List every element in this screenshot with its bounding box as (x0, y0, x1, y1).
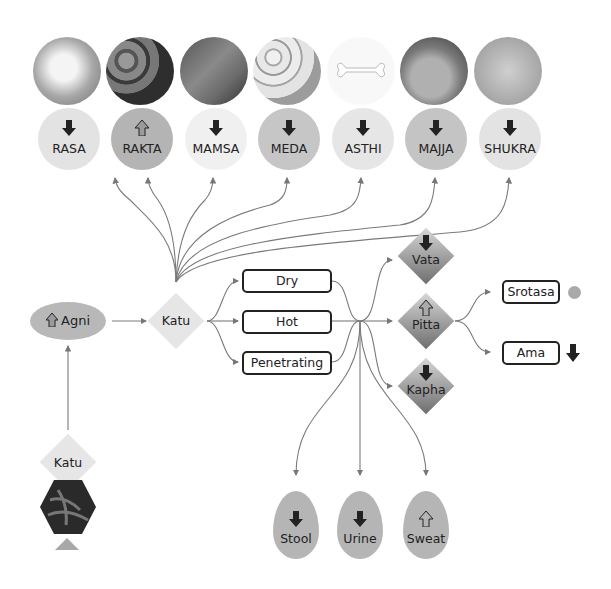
arrow-down-icon (289, 511, 303, 527)
arrow-up-icon (419, 511, 433, 527)
neutral-dot-icon (568, 286, 581, 299)
arrow-down-icon (419, 365, 433, 381)
dhatu-label: SHUKRA (479, 141, 541, 156)
mala-label: Sweat (403, 531, 449, 546)
katu-center-label: Katu (148, 313, 204, 328)
majja-photo (400, 37, 468, 105)
agni-node: Agni (30, 302, 106, 340)
dhatu-rakta: RAKTA (111, 108, 173, 170)
dosha-kapha: Kapha (398, 358, 454, 414)
arrow-down-icon (503, 120, 517, 136)
dhatu-label: RAKTA (111, 141, 173, 156)
arrow-down-icon (209, 120, 223, 136)
katu-center-node: Katu (148, 293, 204, 349)
dosha-label: Vata (398, 252, 454, 267)
dhatu-label: MEDA (258, 141, 320, 156)
mala-label: Stool (273, 531, 319, 546)
arrow-up-icon (55, 538, 79, 552)
bone-icon (327, 37, 395, 105)
dhatu-meda: MEDA (258, 108, 320, 170)
effect-srotasa: Srotasa (502, 280, 560, 304)
rasa-photo (33, 37, 101, 105)
arrow-down-icon (282, 120, 296, 136)
dhatu-mamsa: MAMSA (185, 108, 247, 170)
arrow-up-icon (46, 313, 58, 327)
meda-photo (253, 37, 321, 105)
chili-pepper-image (40, 480, 96, 534)
dhatu-label: RASA (38, 141, 100, 156)
quality-dry: Dry (242, 269, 332, 293)
dosha-vata: Vata (398, 228, 454, 284)
dhatu-shukra: SHUKRA (479, 108, 541, 170)
arrow-up-icon (135, 120, 149, 136)
dhatu-label: MAJJA (405, 141, 467, 156)
arrow-down-icon (62, 120, 76, 136)
shukra-photo (474, 37, 542, 105)
dosha-label: Pitta (398, 317, 454, 332)
mala-label: Urine (337, 531, 383, 546)
dhatu-rasa: RASA (38, 108, 100, 170)
dhatu-label: ASTHI (332, 141, 394, 156)
mamsa-photo (180, 37, 248, 105)
arrow-up-icon (419, 300, 433, 316)
effect-ama: Ama (502, 341, 560, 365)
arrow-down-icon (353, 511, 367, 527)
arrow-down-icon (429, 120, 443, 136)
dhatu-majja: MAJJA (405, 108, 467, 170)
dosha-label: Kapha (398, 382, 454, 397)
arrow-down-icon (419, 235, 433, 251)
arrow-down-icon (566, 344, 580, 362)
dosha-pitta: Pitta (398, 293, 454, 349)
quality-hot: Hot (242, 310, 332, 334)
dhatu-label: MAMSA (185, 141, 247, 156)
quality-penetrating: Penetrating (242, 351, 332, 375)
rakta-photo (106, 37, 174, 105)
dhatu-asthi: ASTHI (332, 108, 394, 170)
agni-label: Agni (61, 313, 90, 328)
asthi-photo (327, 37, 395, 105)
arrow-down-icon (356, 120, 370, 136)
katu-source-label: Katu (40, 455, 96, 470)
